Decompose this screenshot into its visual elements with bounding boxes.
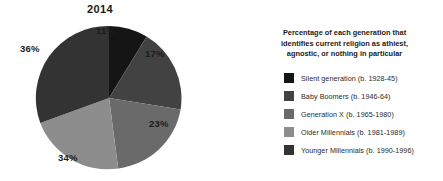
pie-panel: 2014 11% 17% 23% 34% 36%: [0, 0, 222, 181]
pie-value-label-silent: 11%: [96, 25, 115, 36]
legend-item[interactable]: Older Millennials (b. 1981-1989): [284, 123, 443, 141]
chart-title: 2014: [0, 3, 200, 15]
legend-item-label: Generation X (b. 1965-1980): [301, 110, 394, 119]
legend-title: Percentage of each generation that ident…: [262, 28, 427, 60]
legend-item[interactable]: Baby Boomers (b. 1946-64): [284, 87, 443, 105]
legend-title-line-1: Percentage of each generation that: [262, 28, 427, 39]
pie-value-label-baby-boomers: 17%: [145, 48, 165, 59]
pie-chart-figure: 2014 11% 17% 23% 34% 36% Percentage of e…: [0, 0, 443, 181]
legend-item-label: Younger Millennials (b. 1990-1996): [301, 146, 414, 155]
legend-item[interactable]: Younger Millennials (b. 1990-1996): [284, 141, 443, 159]
pie-value-label-younger-millennials: 36%: [20, 43, 40, 54]
pie-slice-generation-x[interactable]: [109, 98, 181, 168]
legend-swatch-icon: [284, 145, 294, 155]
pie-value-label-older-millennials: 34%: [58, 152, 78, 163]
legend-panel: Percentage of each generation that ident…: [258, 28, 443, 159]
legend-swatch-icon: [284, 109, 294, 119]
legend-list: Silent generation (b. 1928-45)Baby Boome…: [258, 69, 443, 159]
legend-title-line-3: agnostic, or nothing in particular: [262, 49, 427, 60]
legend-item-label: Baby Boomers (b. 1946-64): [301, 92, 391, 101]
legend-swatch-icon: [284, 127, 294, 137]
legend-item-label: Older Millennials (b. 1981-1989): [301, 128, 405, 137]
legend-title-line-2: identifies current religion as athiest,: [262, 39, 427, 50]
legend-item[interactable]: Generation X (b. 1965-1980): [284, 105, 443, 123]
pie-value-label-generation-x: 23%: [149, 118, 169, 129]
pie-svg: [34, 23, 184, 173]
legend-item-label: Silent generation (b. 1928-45): [301, 74, 398, 83]
legend-swatch-icon: [284, 73, 294, 83]
legend-item[interactable]: Silent generation (b. 1928-45): [284, 69, 443, 87]
legend-swatch-icon: [284, 91, 294, 101]
